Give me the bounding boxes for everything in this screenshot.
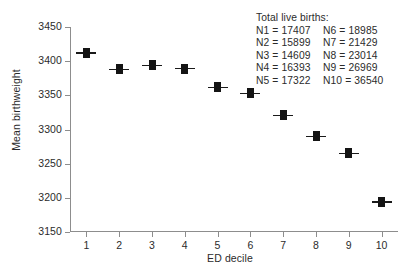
x-axis-title: ED decile [70, 252, 390, 264]
y-tick: 3450 [65, 27, 70, 28]
x-tick-label: 10 [367, 239, 397, 251]
legend-entry-right: N9 = 26969 [323, 62, 403, 75]
y-tick-label: 3450 [38, 20, 62, 32]
legend-entry-right: N10 = 36540 [323, 75, 403, 88]
x-tick-label: 6 [235, 239, 265, 251]
y-tick-label: 3250 [38, 157, 62, 169]
y-tick-label: 3150 [38, 225, 62, 237]
x-tick-label: 8 [301, 239, 331, 251]
legend: Total live births: N1 = 17407N6 = 18985N… [256, 12, 403, 88]
legend-entry-right: N6 = 18985 [323, 25, 403, 38]
legend-entry-left: N2 = 15899 [256, 37, 323, 50]
x-tick: 9 [349, 232, 350, 237]
legend-entry-left: N1 = 17407 [256, 25, 323, 38]
legend-entry-left: N3 = 14609 [256, 50, 323, 63]
marker-square [214, 82, 221, 92]
legend-row: N2 = 15899N7 = 21429 [256, 37, 403, 50]
x-tick-label: 2 [104, 239, 134, 251]
marker-square [181, 64, 188, 74]
y-tick: 3300 [65, 130, 70, 131]
x-tick: 3 [152, 232, 153, 237]
x-tick: 1 [86, 232, 87, 237]
legend-entry-right: N8 = 23014 [323, 50, 403, 63]
y-tick-label: 3200 [38, 191, 62, 203]
legend-entry-left: N5 = 17322 [256, 75, 323, 88]
legend-row: N4 = 16393N9 = 26969 [256, 62, 403, 75]
x-tick-label: 7 [268, 239, 298, 251]
y-tick-label: 3300 [38, 123, 62, 135]
x-tick: 7 [283, 232, 284, 237]
x-tick: 8 [316, 232, 317, 237]
marker-square [149, 60, 156, 70]
marker-square [313, 131, 320, 141]
x-tick-label: 9 [334, 239, 364, 251]
legend-title: Total live births: [256, 12, 403, 25]
marker-square [116, 64, 123, 74]
y-tick: 3250 [65, 164, 70, 165]
y-tick-label: 3350 [38, 88, 62, 100]
x-tick-label: 1 [71, 239, 101, 251]
y-axis-line [70, 27, 71, 232]
y-axis-title: Mean birthweight [10, 45, 22, 175]
legend-row: N1 = 17407N6 = 18985 [256, 25, 403, 38]
x-tick: 4 [185, 232, 186, 237]
legend-entry-left: N4 = 16393 [256, 62, 323, 75]
x-tick-label: 3 [137, 239, 167, 251]
marker-square [247, 88, 254, 98]
y-tick: 3350 [65, 95, 70, 96]
x-tick: 10 [382, 232, 383, 237]
marker-square [280, 110, 287, 120]
x-tick: 5 [218, 232, 219, 237]
legend-row: N3 = 14609N8 = 23014 [256, 50, 403, 63]
marker-square [345, 148, 352, 158]
legend-entry-right: N7 = 21429 [323, 37, 403, 50]
x-tick: 6 [250, 232, 251, 237]
x-tick-label: 5 [203, 239, 233, 251]
y-tick: 3400 [65, 61, 70, 62]
legend-row: N5 = 17322N10 = 36540 [256, 75, 403, 88]
legend-rows: N1 = 17407N6 = 18985N2 = 15899N7 = 21429… [256, 25, 403, 88]
marker-square [83, 48, 90, 58]
y-tick: 3200 [65, 198, 70, 199]
marker-square [378, 197, 385, 207]
chart-figure: Mean birthweight ED decile 3450340033503… [0, 0, 420, 273]
y-tick: 3150 [65, 232, 70, 233]
x-tick: 2 [119, 232, 120, 237]
x-tick-label: 4 [170, 239, 200, 251]
y-tick-label: 3400 [38, 54, 62, 66]
